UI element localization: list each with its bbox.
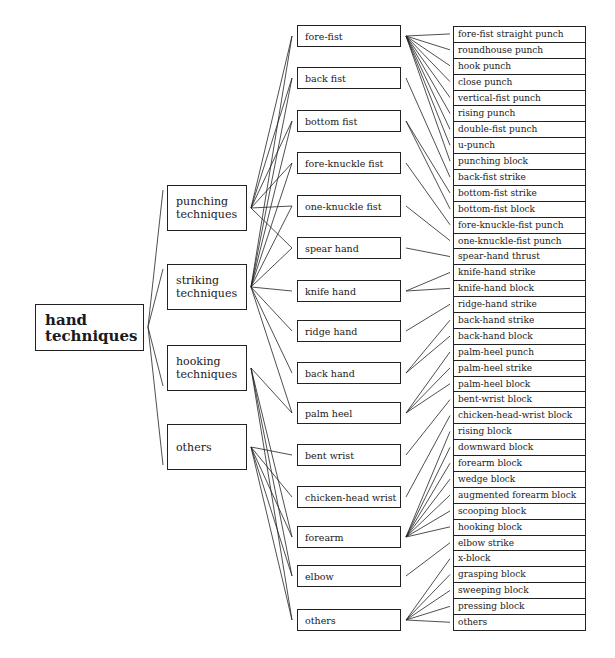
technique-item: back-fist strike — [454, 170, 585, 186]
part-node: back fist — [297, 67, 401, 89]
part-node: chicken-head wrist — [297, 486, 401, 508]
technique-item: palm-heel block — [454, 377, 585, 393]
category-label: others — [176, 441, 212, 454]
part-node: others — [297, 609, 401, 631]
category-node-punching: punchingtechniques — [167, 185, 247, 231]
technique-item: back-hand strike — [454, 313, 585, 329]
technique-item: knife-hand strike — [454, 265, 585, 281]
technique-item: x-block — [454, 551, 585, 567]
part-node: fore-knuckle fist — [297, 152, 401, 174]
part-node: elbow — [297, 565, 401, 587]
technique-item: augmented forearm block — [454, 488, 585, 504]
part-node: forearm — [297, 526, 401, 548]
category-node-others: others — [167, 424, 247, 470]
technique-item: close punch — [454, 75, 585, 91]
technique-item: roundhouse punch — [454, 43, 585, 59]
technique-item: one-knuckle-fist punch — [454, 234, 585, 250]
root-label-line1: hand — [45, 312, 138, 328]
technique-item: hooking block — [454, 520, 585, 536]
category-label: techniques — [176, 287, 237, 300]
technique-item: fore-fist straight punch — [454, 27, 585, 43]
technique-item: rising block — [454, 424, 585, 440]
technique-item: palm-heel strike — [454, 361, 585, 377]
part-node: ridge hand — [297, 320, 401, 342]
part-node: one-knuckle fist — [297, 195, 401, 217]
technique-item: scooping block — [454, 504, 585, 520]
technique-item: others — [454, 615, 585, 631]
category-label: punching — [176, 195, 237, 208]
category-label: striking — [176, 274, 237, 287]
technique-item: u-punch — [454, 138, 585, 154]
root-label-line2: techniques — [45, 328, 138, 344]
part-node: knife hand — [297, 280, 401, 302]
category-node-striking: strikingtechniques — [167, 264, 247, 310]
technique-item: rising punch — [454, 106, 585, 122]
technique-item: hook punch — [454, 59, 585, 75]
technique-item: back-hand block — [454, 329, 585, 345]
technique-item: ridge-hand strike — [454, 297, 585, 313]
technique-item: sweeping block — [454, 583, 585, 599]
technique-item: elbow strike — [454, 536, 585, 552]
technique-item: downward block — [454, 440, 585, 456]
technique-item: grasping block — [454, 567, 585, 583]
technique-item: double-fist punch — [454, 122, 585, 138]
part-node: spear hand — [297, 237, 401, 259]
technique-item: punching block — [454, 154, 585, 170]
technique-item: wedge block — [454, 472, 585, 488]
technique-item: spear-hand thrust — [454, 249, 585, 265]
technique-item: bent-wrist block — [454, 392, 585, 408]
part-node: palm heel — [297, 402, 401, 424]
category-label: techniques — [176, 208, 237, 221]
category-label: techniques — [176, 368, 237, 381]
category-node-hooking: hookingtechniques — [167, 345, 247, 391]
technique-item: bottom-fist block — [454, 202, 585, 218]
technique-item: forearm block — [454, 456, 585, 472]
technique-item: bottom-fist strike — [454, 186, 585, 202]
technique-item: knife-hand block — [454, 281, 585, 297]
technique-item: fore-knuckle-fist punch — [454, 218, 585, 234]
root-node-hand-techniques: hand techniques — [35, 304, 144, 351]
part-node: bent wrist — [297, 444, 401, 466]
part-node: fore-fist — [297, 25, 401, 47]
part-node: back hand — [297, 362, 401, 384]
part-node: bottom fist — [297, 110, 401, 132]
technique-item: pressing block — [454, 599, 585, 615]
category-label: hooking — [176, 355, 237, 368]
technique-item: palm-heel punch — [454, 345, 585, 361]
technique-item: vertical-fist punch — [454, 91, 585, 107]
techniques-list: fore-fist straight punch roundhouse punc… — [453, 26, 586, 631]
technique-item: chicken-head-wrist block — [454, 408, 585, 424]
